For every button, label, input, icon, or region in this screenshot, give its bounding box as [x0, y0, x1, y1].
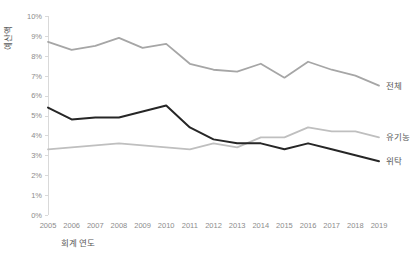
y-tick-label: 10%	[27, 12, 42, 21]
x-tick-label: 2011	[182, 221, 198, 230]
y-tick-label: 6%	[31, 91, 42, 100]
x-tick-label: 2018	[347, 221, 364, 230]
x-tick-label: 2019	[371, 221, 388, 230]
y-tick-label: 0%	[31, 211, 42, 220]
y-tick-label: 7%	[31, 72, 42, 81]
x-tick-label: 2017	[323, 221, 340, 230]
chart-canvas: 10%9%8%7%6%5%4%3%2%1%0% 2005200620072008…	[0, 0, 410, 259]
y-tick-label: 4%	[31, 131, 42, 140]
y-axis-title: 예산액	[3, 26, 13, 50]
x-tick-label: 2015	[276, 221, 293, 230]
x-tick-label: 2014	[252, 221, 269, 230]
x-tick-label: 2009	[134, 221, 151, 230]
x-axis: 2005200620072008200920102011201220132014…	[40, 221, 388, 230]
series-line-2	[48, 106, 379, 162]
y-tick-label: 3%	[31, 151, 42, 160]
series-line-0	[48, 38, 379, 86]
series-lines	[48, 38, 379, 161]
legend-label-2: 위탁	[386, 156, 402, 166]
y-tick-label: 8%	[31, 52, 42, 61]
y-axis: 10%9%8%7%6%5%4%3%2%1%0%	[27, 12, 49, 220]
y-tick-label: 5%	[31, 111, 42, 120]
legend-label-0: 전체	[386, 81, 402, 91]
x-tick-label: 2008	[111, 221, 128, 230]
y-tick-label: 9%	[31, 32, 42, 41]
x-tick-label: 2006	[63, 221, 80, 230]
line-chart: 10%9%8%7%6%5%4%3%2%1%0% 2005200620072008…	[0, 0, 410, 259]
legend-label-1: 유기농	[386, 132, 410, 142]
chart-legend: 전체유기농위탁	[386, 81, 410, 167]
x-tick-label: 2016	[300, 221, 317, 230]
x-tick-label: 2007	[87, 221, 104, 230]
y-tick-label: 2%	[31, 171, 42, 180]
x-tick-label: 2013	[229, 221, 246, 230]
x-tick-label: 2012	[205, 221, 222, 230]
x-axis-title: 회계 연도	[61, 238, 95, 248]
x-tick-label: 2010	[158, 221, 175, 230]
y-tick-label: 1%	[31, 191, 42, 200]
x-tick-label: 2005	[40, 221, 57, 230]
